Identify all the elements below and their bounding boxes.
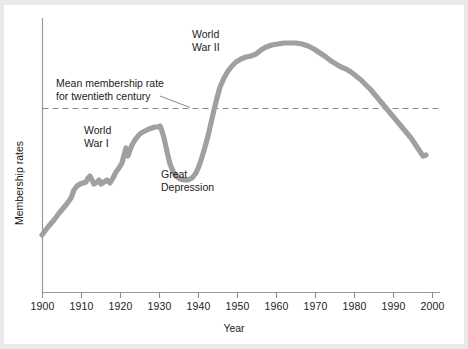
x-tick-label-1960: 1960 (257, 300, 297, 312)
x-tick-label-2000: 2000 (413, 300, 453, 312)
x-tick-label-1900: 1900 (23, 300, 63, 312)
mean-callout-leader (160, 96, 190, 108)
x-tick-label-1910: 1910 (62, 300, 102, 312)
x-axis-title: Year (0, 322, 468, 334)
x-tick-label-1970: 1970 (296, 300, 336, 312)
x-tick-label-1930: 1930 (140, 300, 180, 312)
mean-line-callout-label: Mean membership rate for twentieth centu… (56, 77, 164, 103)
x-tick-label-1980: 1980 (335, 300, 375, 312)
x-tick-label-1950: 1950 (218, 300, 258, 312)
world-war-2-label: World War II (192, 28, 220, 54)
world-war-1-label: World War I (84, 124, 111, 150)
y-axis-title: Membership rates (13, 123, 25, 243)
great-depression-label: Great Depression (161, 168, 214, 194)
x-tick-label-1940: 1940 (179, 300, 219, 312)
x-tick-label-1920: 1920 (101, 300, 141, 312)
chart-figure: 1900 1910 1920 1930 1940 1950 1960 1970 … (0, 0, 468, 349)
plot-canvas (0, 0, 468, 349)
x-tick-label-1990: 1990 (374, 300, 414, 312)
